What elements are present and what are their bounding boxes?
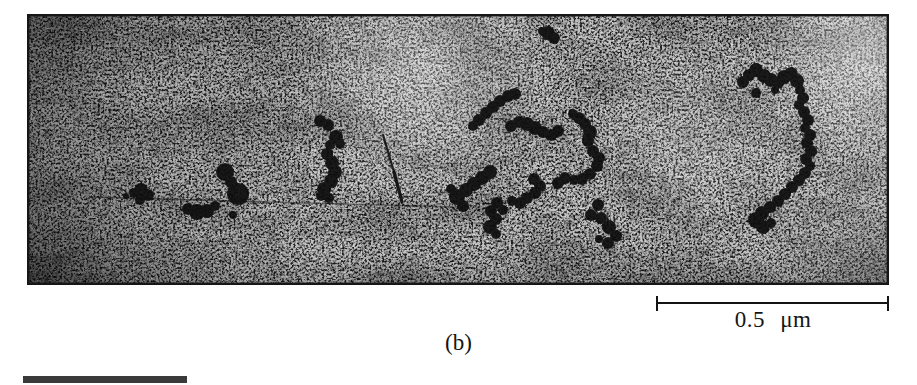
scale-bar-line [657, 302, 888, 304]
figure-panel: 0.5 μm (b) [0, 0, 917, 385]
cropped-scale-bar [23, 376, 187, 383]
micrograph-frame [27, 14, 889, 285]
panel-label: (b) [0, 330, 917, 356]
tem-micrograph [27, 14, 889, 285]
